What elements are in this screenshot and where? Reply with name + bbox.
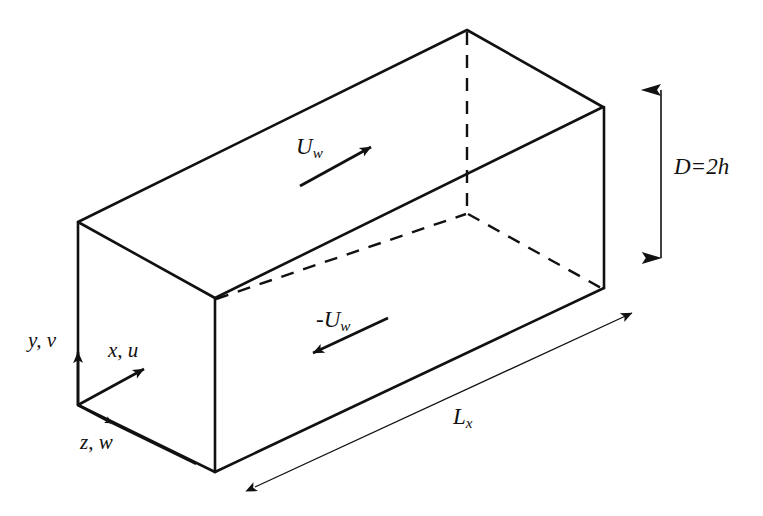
axis-x-label: x, u xyxy=(108,340,138,361)
figure-canvas: Uw -Uw D=2h Lx y, v x, u z, w xyxy=(0,0,763,516)
top-wall-velocity-base: U xyxy=(296,134,313,159)
length-dimension-sub: x xyxy=(466,414,473,431)
bottom-wall-velocity-label: -Uw xyxy=(316,308,350,333)
top-wall-velocity-label: Uw xyxy=(296,135,323,160)
length-dimension-label: Lx xyxy=(453,405,473,430)
bottom-wall-velocity-prefix: - xyxy=(316,307,324,332)
axis-z-label: z, w xyxy=(80,432,113,453)
bottom-wall-velocity-base: U xyxy=(324,307,341,332)
bottom-wall-velocity-sub: w xyxy=(340,317,350,334)
height-dimension-label: D=2h xyxy=(674,155,729,178)
top-wall-velocity-sub: w xyxy=(313,144,323,161)
box-faces xyxy=(78,30,604,472)
couette-box-diagram xyxy=(0,0,763,516)
axis-y-label: y, v xyxy=(28,330,56,351)
length-dimension-base: L xyxy=(453,404,466,429)
